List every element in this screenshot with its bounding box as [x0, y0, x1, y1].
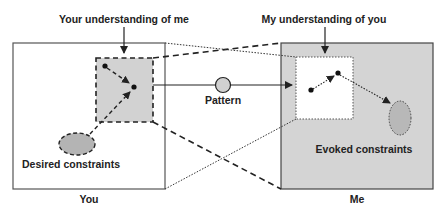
dotted-projection-bottom	[165, 119, 296, 189]
pattern-circle	[216, 78, 231, 93]
dashed-projection-top	[153, 43, 281, 58]
point-left-1	[102, 63, 107, 68]
desired-constraints-ellipse	[59, 133, 95, 155]
dashed-projection-bottom	[153, 122, 281, 189]
my-understanding-box	[296, 57, 353, 119]
point-right-2	[335, 70, 340, 75]
label-pattern: Pattern	[205, 94, 241, 106]
evoked-constraints-ellipse	[389, 101, 411, 135]
point-right-1	[308, 87, 313, 92]
label-me: Me	[350, 193, 365, 205]
point-left-2	[131, 84, 136, 89]
label-desired-constraints: Desired constraints	[22, 158, 120, 170]
label-you: You	[79, 193, 98, 205]
understanding-diagram: Your understanding of me My understandin…	[0, 0, 443, 216]
label-your-understanding: Your understanding of me	[59, 13, 189, 25]
label-evoked-constraints: Evoked constraints	[316, 143, 413, 155]
label-my-understanding: My understanding of you	[262, 13, 387, 25]
